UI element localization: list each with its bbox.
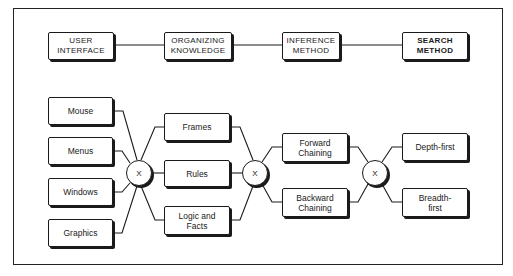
label-line2: INTERFACE — [57, 46, 105, 56]
label-line1: Backward — [296, 193, 333, 203]
option-frames: Frames — [164, 113, 230, 141]
option-depth-first: Depth-first — [402, 133, 468, 161]
junction-x-3: X — [362, 160, 388, 186]
option-label: Windows — [63, 187, 97, 197]
label-line2: METHOD — [417, 46, 453, 56]
option-graphics: Graphics — [48, 219, 113, 247]
option-label: Mouse — [68, 106, 94, 116]
label-line2: Chaining — [298, 148, 332, 158]
junction-label: X — [372, 169, 377, 178]
junction-label: X — [136, 169, 141, 178]
option-rules: Rules — [164, 160, 230, 187]
label-line1: USER — [57, 36, 105, 46]
header-inference-method: INFERENCEMETHOD — [282, 32, 340, 60]
option-breadth-first: Breadth-first — [402, 188, 468, 217]
option-menus: Menus — [48, 137, 113, 165]
label-line2: first — [419, 203, 452, 213]
option-forward-chaining: ForwardChaining — [282, 133, 348, 162]
option-label: Graphics — [63, 228, 97, 238]
option-logic-and-facts: Logic andFacts — [164, 206, 230, 235]
option-backward-chaining: BackwardChaining — [282, 188, 348, 217]
label-line2: Facts — [179, 221, 216, 231]
option-label: Rules — [186, 169, 208, 179]
junction-label: X — [252, 169, 257, 178]
label-line1: Breadth- — [419, 193, 452, 203]
label-line1: SEARCH — [417, 36, 453, 46]
junction-x-1: X — [126, 160, 152, 186]
option-label: Depth-first — [415, 142, 454, 152]
header-user-interface: USERINTERFACE — [48, 32, 114, 60]
header-search-method: SEARCHMETHOD — [402, 32, 468, 60]
label-line2: METHOD — [287, 46, 336, 56]
label-line1: Forward — [298, 138, 332, 148]
label-line1: INFERENCE — [287, 36, 336, 46]
option-label: Menus — [68, 146, 94, 156]
option-label: Frames — [183, 122, 212, 132]
label-line1: Logic and — [179, 211, 216, 221]
label-line2: Chaining — [296, 203, 333, 213]
junction-x-2: X — [242, 160, 268, 186]
label-line1: ORGANIZING — [171, 36, 226, 46]
label-line2: KNOWLEDGE — [171, 46, 226, 56]
option-mouse: Mouse — [48, 97, 113, 125]
option-windows: Windows — [48, 178, 113, 206]
header-organizing-knowledge: ORGANIZINGKNOWLEDGE — [164, 32, 232, 60]
